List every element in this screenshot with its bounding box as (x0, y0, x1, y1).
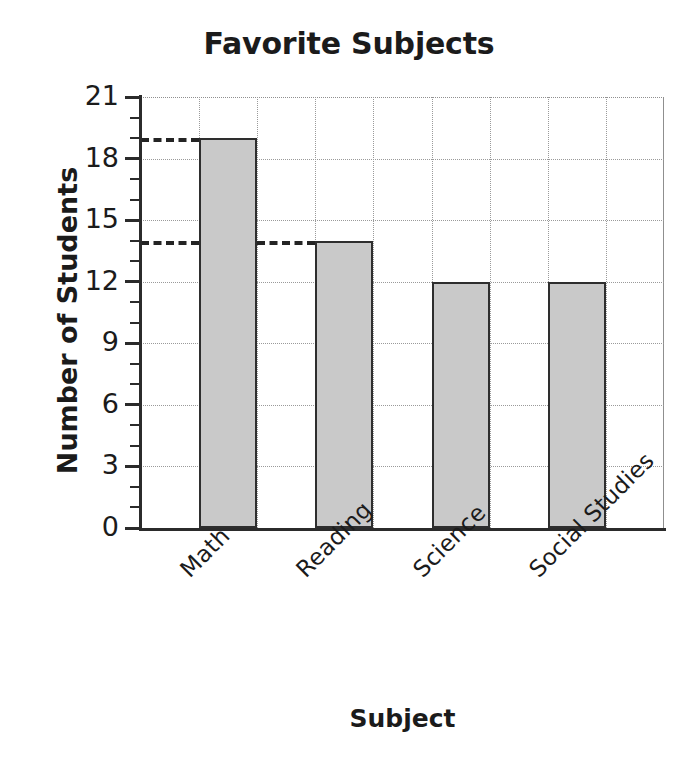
y-tick-major (125, 403, 141, 406)
plot-area (141, 97, 664, 528)
y-tick-label: 3 (59, 451, 119, 478)
gridline-vertical (606, 97, 607, 528)
x-axis-title: Subject (141, 704, 664, 733)
bar-reading (315, 241, 373, 528)
y-tick-major (125, 280, 141, 283)
y-tick-major (125, 96, 141, 99)
y-tick-major (125, 527, 141, 530)
y-tick-label: 0 (59, 513, 119, 540)
y-tick-minor (130, 486, 141, 488)
y-tick-minor (130, 424, 141, 426)
gridline-vertical (373, 97, 374, 528)
y-tick-minor (130, 199, 141, 201)
y-tick-label: 6 (59, 390, 119, 417)
y-tick-major (125, 465, 141, 468)
leader-line-segment (141, 241, 199, 245)
bar-science (432, 282, 490, 528)
plot-frame-right (663, 97, 664, 528)
y-tick-minor (130, 506, 141, 508)
y-tick-major (125, 342, 141, 345)
y-tick-minor (130, 117, 141, 119)
y-tick-minor (130, 445, 141, 447)
bar-chart-figure: Favorite Subjects Number of Students 036… (0, 0, 698, 760)
y-tick-minor (130, 301, 141, 303)
leader-line-segment (141, 138, 199, 142)
y-tick-minor (130, 178, 141, 180)
y-tick-minor (130, 363, 141, 365)
y-tick-label: 21 (59, 82, 119, 109)
leader-line-segment (257, 241, 315, 245)
y-tick-minor (130, 383, 141, 385)
plot-frame-top (141, 97, 664, 98)
y-tick-minor (130, 322, 141, 324)
y-tick-minor (130, 260, 141, 262)
gridline-vertical (257, 97, 258, 528)
y-tick-minor (130, 137, 141, 139)
bar-math (199, 138, 257, 528)
chart-title: Favorite Subjects (0, 26, 698, 61)
gridline-vertical (490, 97, 491, 528)
y-tick-major (125, 157, 141, 160)
x-tick-label-math: Math (175, 522, 235, 582)
y-tick-major (125, 219, 141, 222)
y-tick-label: 9 (59, 328, 119, 355)
y-tick-label: 15 (59, 205, 119, 232)
y-tick-minor (130, 240, 141, 242)
y-tick-label: 18 (59, 144, 119, 171)
y-tick-label: 12 (59, 267, 119, 294)
